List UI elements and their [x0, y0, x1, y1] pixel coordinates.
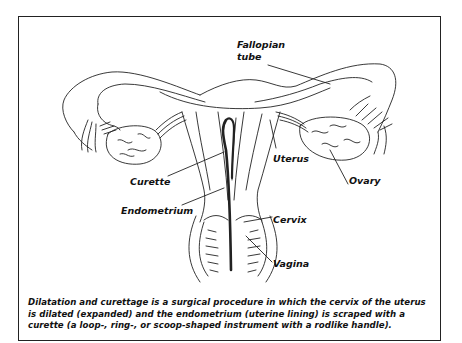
label-vagina: Vagina: [273, 258, 309, 269]
label-fallopian-tube-line2: tube: [237, 51, 262, 62]
uterus-anatomy-illustration: [0, 0, 462, 343]
label-cervix: Cervix: [273, 214, 307, 225]
label-ovary: Ovary: [349, 175, 381, 186]
label-curette: Curette: [130, 176, 170, 187]
figure-caption: Dilatation and curettage is a surgical p…: [28, 297, 433, 332]
label-uterus: Uterus: [273, 153, 309, 164]
label-endometrium: Endometrium: [121, 205, 193, 216]
label-fallopian-tube-line1: Fallopian: [237, 39, 285, 50]
